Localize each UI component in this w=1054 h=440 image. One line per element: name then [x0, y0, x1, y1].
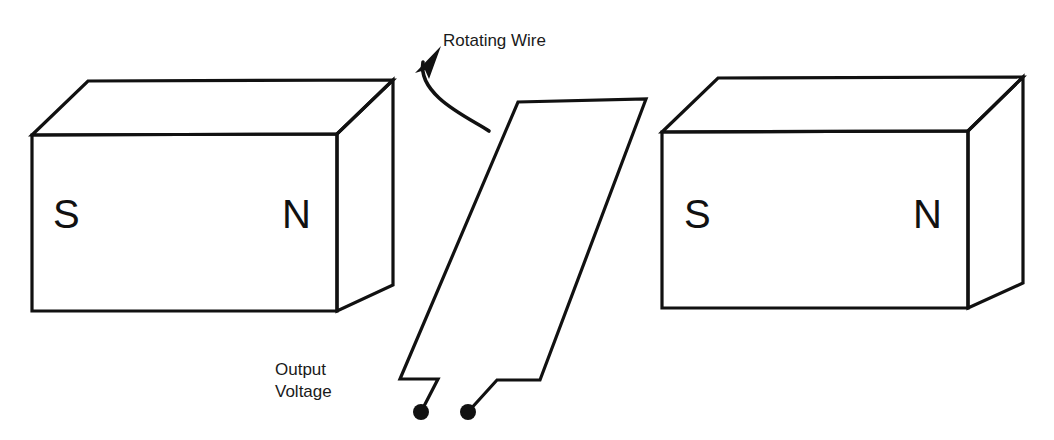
wire-loop-outline: [400, 99, 646, 412]
right-magnet-north-label: N: [913, 192, 942, 236]
output-terminal-left-dot: [413, 404, 429, 420]
generator-diagram: S N S N Rotating Wire O: [0, 0, 1054, 440]
right-magnet-side-face: [968, 77, 1023, 308]
right-magnet-south-label: S: [684, 192, 711, 236]
right-magnet-top-face: [662, 77, 1023, 132]
left-magnet-south-label: S: [53, 192, 80, 236]
rotation-arrow-arc: [423, 62, 489, 131]
output-voltage-label-line2: Voltage: [275, 382, 332, 401]
right-magnet: S N: [662, 77, 1023, 308]
output-terminal-right-dot: [460, 404, 476, 420]
rotation-direction-arrow: [415, 46, 489, 131]
rotating-wire-label: Rotating Wire: [443, 31, 546, 50]
rotation-arrow-head-icon: [415, 46, 441, 79]
output-voltage-label-line1: Output: [275, 360, 326, 379]
left-magnet-top-face: [32, 80, 393, 135]
left-magnet-side-face: [337, 80, 393, 311]
left-magnet-north-label: N: [282, 192, 311, 236]
rotating-wire-loop: [400, 99, 646, 420]
diagram-canvas: S N S N Rotating Wire O: [0, 0, 1054, 440]
left-magnet: S N: [32, 80, 393, 311]
